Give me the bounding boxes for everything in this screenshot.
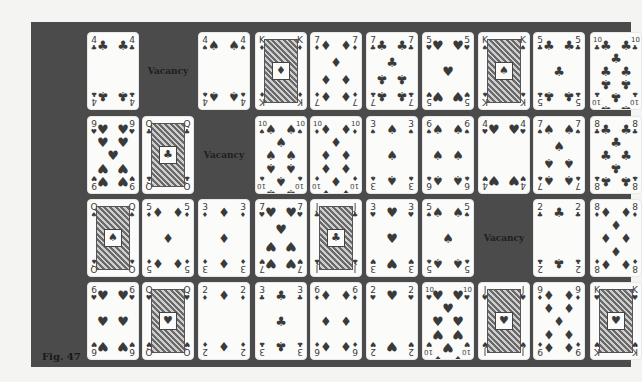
card-index: 10♠ bbox=[296, 120, 304, 136]
suit-icon: ♠ bbox=[265, 188, 277, 194]
suit-icon: ♥ bbox=[296, 212, 304, 219]
suit-icon: ♥ bbox=[488, 123, 500, 136]
card-index: 5♣ bbox=[574, 36, 582, 52]
pip-row: ♥♥ bbox=[265, 240, 297, 253]
suit-icon: ♠ bbox=[285, 123, 297, 136]
suit-icon: ♥ bbox=[463, 90, 471, 97]
card-pips: ♦♦♦♦♦♦♦♦♦♦ bbox=[320, 123, 352, 187]
pip-row: ♥ bbox=[376, 206, 408, 219]
card-index: 3♦ bbox=[239, 257, 247, 273]
card-pips: ♠♠♠♠♠♠♠ bbox=[543, 123, 575, 187]
pip-row: ♦♦ bbox=[320, 73, 352, 86]
suit-icon: ♦ bbox=[320, 289, 332, 302]
card-index: 6♥ bbox=[128, 340, 136, 356]
suit-icon: ♦ bbox=[320, 315, 332, 328]
suit-icon: ♣ bbox=[574, 45, 582, 52]
playing-card: K♠K♠K♠K♠♠ bbox=[478, 32, 530, 110]
suit-icon: ♦ bbox=[239, 340, 247, 347]
card-index: 10♣ bbox=[631, 36, 639, 52]
suit-icon: ♥ bbox=[285, 240, 297, 253]
suit-icon: ♠ bbox=[239, 90, 247, 97]
suit-icon: ♦ bbox=[351, 90, 359, 97]
suit-icon: ♦ bbox=[320, 90, 332, 103]
suit-icon: ♥ bbox=[275, 223, 287, 236]
playing-card: 6♦6♦6♦6♦♦♦♦♦♦♦ bbox=[310, 282, 362, 360]
card-pips: ♠♠♠♠♠♠ bbox=[432, 123, 464, 187]
card-index: 10♣ bbox=[631, 90, 639, 106]
card-pips: ♠♠♠♠ bbox=[208, 39, 240, 103]
pip-row: ♦♦ bbox=[320, 340, 352, 353]
suit-icon: ♥ bbox=[463, 295, 471, 302]
suit-icon: ♣ bbox=[631, 45, 639, 52]
suit-icon: ♣ bbox=[574, 90, 582, 97]
card-rank: 9 bbox=[574, 347, 582, 356]
card-index: 6♥ bbox=[128, 286, 136, 302]
suit-icon: ♦ bbox=[543, 341, 555, 354]
suit-icon: ♠ bbox=[543, 174, 555, 187]
suit-icon: ♥ bbox=[386, 257, 398, 270]
suit-icon: ♥ bbox=[296, 257, 304, 264]
suit-icon: ♣ bbox=[600, 104, 612, 110]
suit-icon: ♥ bbox=[117, 175, 129, 188]
suit-icon: ♥ bbox=[452, 90, 464, 103]
card-index: 3♣ bbox=[296, 340, 304, 356]
pip-row: ♠♠ bbox=[432, 174, 464, 187]
suit-icon: ♥ bbox=[97, 289, 109, 302]
card-index: 5♠ bbox=[463, 203, 471, 219]
suit-icon: ♥ bbox=[117, 136, 129, 149]
card-index: 2♦ bbox=[239, 286, 247, 302]
playing-card: K♥K♥K♥K♥♥ bbox=[590, 282, 642, 360]
card-pips: ♦♦♦♦♦♦ bbox=[320, 289, 352, 353]
suit-icon: ♦ bbox=[574, 295, 582, 302]
pip-row: ♣♣ bbox=[543, 90, 575, 103]
card-rank: 8 bbox=[631, 181, 639, 190]
playing-card: 5♥5♥5♥5♥♥♥♥♥♥ bbox=[422, 32, 474, 110]
card-pips: ♣♣♣ bbox=[265, 289, 297, 353]
suit-icon: ♦ bbox=[340, 123, 352, 136]
suit-icon: ♥ bbox=[407, 212, 415, 219]
playing-card: 2♦2♦2♦2♦♦♦ bbox=[198, 282, 250, 360]
suit-icon: ♠ bbox=[296, 174, 304, 181]
suit-icon: ♦ bbox=[320, 188, 332, 194]
playing-card: 5♦5♦5♦5♦♦♦♦♦♦ bbox=[142, 199, 194, 277]
playing-card: 9♥9♥9♥9♥♥♥♥♥♥♥♥♥♥ bbox=[87, 116, 139, 194]
suit-icon: ♣ bbox=[620, 104, 632, 110]
suit-icon: ♠ bbox=[574, 129, 582, 136]
card-rank: 5 bbox=[463, 264, 471, 273]
pip-row: ♠♠ bbox=[208, 90, 240, 103]
suit-icon: ♠ bbox=[563, 123, 575, 136]
card-pips: ♥♥ bbox=[376, 289, 408, 353]
playing-card: 10♠10♠10♠10♠♠♠♠♠♠♠♠♠♠♠ bbox=[255, 116, 307, 194]
card-rank: 4 bbox=[239, 97, 247, 106]
card-pips: ♥♥♥♥♥♥♥♥♥♥ bbox=[432, 289, 464, 353]
suit-icon: ♠ bbox=[553, 140, 565, 153]
playing-card: 10♦10♦10♦10♦♦♦♦♦♦♦♦♦♦♦ bbox=[310, 116, 362, 194]
card-pips: ♣♣♣♣♣♣♣ bbox=[376, 39, 408, 103]
pip-row: ♦ bbox=[208, 206, 240, 219]
card-rank: 6 bbox=[351, 347, 359, 356]
playing-card: Q♥Q♥Q♥Q♥♥ bbox=[142, 282, 194, 360]
card-rank: 10 bbox=[351, 181, 359, 190]
suit-icon: ♣ bbox=[386, 56, 398, 69]
card-index: 4♠ bbox=[239, 90, 247, 106]
playing-card: 9♦9♦9♦9♦♦♦♦♦♦♦♦♦♦ bbox=[533, 282, 585, 360]
suit-icon: ♠ bbox=[452, 149, 464, 162]
suit-icon: ♠ bbox=[228, 90, 240, 103]
suit-icon: ♥ bbox=[508, 174, 520, 187]
playing-card: 7♥7♥7♥7♥♥♥♥♥♥♥♥ bbox=[255, 199, 307, 277]
suit-icon: ♦ bbox=[340, 73, 352, 86]
card-index: 3♦ bbox=[239, 203, 247, 219]
suit-icon: ♠ bbox=[452, 123, 464, 136]
suit-icon: ♣ bbox=[620, 149, 632, 162]
card-rank: 3 bbox=[407, 181, 415, 190]
suit-icon: ♣ bbox=[296, 340, 304, 347]
card-rank: 5 bbox=[463, 97, 471, 106]
pip-row: ♥♥ bbox=[488, 174, 520, 187]
card-index: 7♠ bbox=[574, 120, 582, 136]
card-index: 6♠ bbox=[463, 120, 471, 136]
pip-row: ♥ bbox=[432, 65, 464, 78]
suit-icon: ♥ bbox=[128, 295, 136, 302]
card-rank: 7 bbox=[407, 97, 415, 106]
playing-card: Q♣Q♣Q♣Q♣♣ bbox=[142, 116, 194, 194]
suit-icon: ♠ bbox=[208, 90, 220, 103]
